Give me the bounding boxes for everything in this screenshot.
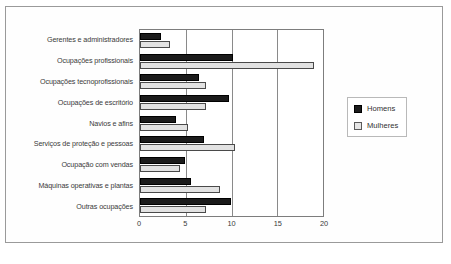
x-tick-label: 10 <box>227 219 235 228</box>
legend-item-homens: Homens <box>354 104 398 113</box>
category-label: Ocupações de escritório <box>14 92 136 113</box>
bar-group <box>140 154 323 175</box>
bar-homens <box>140 136 204 143</box>
bar-homens <box>140 54 233 61</box>
bar-homens <box>140 74 199 81</box>
bar-mulheres <box>140 82 206 89</box>
bar-mulheres <box>140 124 188 131</box>
bar-chart: Gerentes e administradores Ocupações pro… <box>6 7 444 244</box>
bar-group <box>140 71 323 92</box>
legend: Homens Mulheres <box>347 97 407 137</box>
bar-homens <box>140 157 185 164</box>
x-tick-label: 5 <box>183 219 187 228</box>
category-axis-labels: Gerentes e administradores Ocupações pro… <box>14 29 136 217</box>
category-label: Máquinas operativas e plantas <box>14 175 136 196</box>
bar-homens <box>140 198 231 205</box>
bar-mulheres <box>140 165 180 172</box>
bar-mulheres <box>140 41 170 48</box>
figure-frame: Gerentes e administradores Ocupações pro… <box>5 6 443 243</box>
plot-area <box>139 29 324 217</box>
x-tick-label: 20 <box>320 219 328 228</box>
bar-mulheres <box>140 62 314 69</box>
x-tick-label: 0 <box>137 219 141 228</box>
bar-group <box>140 51 323 72</box>
category-label: Navios e afins <box>14 113 136 134</box>
legend-label: Mulheres <box>367 121 398 130</box>
bar-homens <box>140 33 161 40</box>
category-label: Gerentes e administradores <box>14 29 136 50</box>
bar-group <box>140 30 323 51</box>
x-tick-label: 15 <box>274 219 282 228</box>
bar-group <box>140 133 323 154</box>
bar-mulheres <box>140 206 206 213</box>
legend-label: Homens <box>367 104 395 113</box>
bar-mulheres <box>140 186 220 193</box>
bar-mulheres <box>140 144 235 151</box>
category-label: Outras ocupações <box>14 196 136 217</box>
bar-homens <box>140 95 229 102</box>
legend-item-mulheres: Mulheres <box>354 121 398 130</box>
bar-group <box>140 175 323 196</box>
bar-homens <box>140 178 191 185</box>
legend-swatch-icon <box>354 105 362 113</box>
legend-swatch-icon <box>354 122 362 130</box>
bar-groups <box>140 30 323 216</box>
bar-group <box>140 195 323 216</box>
category-label: Serviços de proteção e pessoas <box>14 133 136 154</box>
bar-homens <box>140 116 176 123</box>
figure-caption <box>6 250 166 259</box>
value-axis-labels: 05101520 <box>139 219 324 233</box>
category-label: Ocupações tecnoprofissionais <box>14 71 136 92</box>
category-label: Ocupação com vendas <box>14 154 136 175</box>
bar-group <box>140 113 323 134</box>
bar-mulheres <box>140 103 206 110</box>
bar-group <box>140 92 323 113</box>
category-label: Ocupações profissionais <box>14 50 136 71</box>
